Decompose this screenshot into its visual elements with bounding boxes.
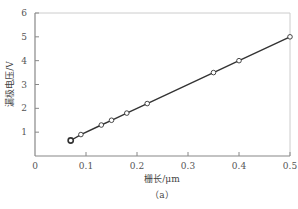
plot-frame: [35, 13, 290, 156]
data-point-marker: [109, 118, 114, 123]
x-tick-label: 0.2: [130, 161, 144, 171]
data-point-marker: [99, 123, 104, 128]
y-axis-ticks: 123456: [21, 8, 39, 137]
x-tick-label: 0.4: [232, 161, 247, 171]
x-tick-label: 0.5: [283, 161, 298, 171]
data-point-marker: [125, 111, 130, 116]
x-tick-label: 0: [32, 161, 38, 171]
x-tick-label: 0.3: [181, 161, 196, 171]
x-tick-label: 0.1: [79, 161, 93, 171]
figure-caption: （a）: [150, 190, 173, 200]
line-chart: 00.10.20.30.40.5 123456 栅长/μm （a） 漏极电压/V: [0, 0, 298, 209]
x-axis-label: 栅长/μm: [144, 173, 180, 184]
y-tick-label: 6: [21, 8, 27, 18]
data-point-marker: [68, 138, 73, 143]
data-point-marker: [79, 132, 84, 137]
x-axis-ticks: 00.10.20.30.40.5: [32, 152, 297, 171]
y-tick-label: 2: [21, 103, 27, 113]
data-point-marker: [237, 58, 242, 63]
y-tick-label: 1: [21, 127, 27, 137]
y-tick-label: 3: [21, 80, 27, 90]
data-point-marker: [288, 35, 293, 40]
data-series: [68, 35, 292, 144]
data-point-marker: [145, 101, 150, 106]
y-tick-label: 4: [21, 56, 27, 66]
data-point-marker: [211, 70, 216, 75]
y-tick-label: 5: [21, 32, 27, 42]
y-axis-label: 漏极电压/V: [4, 61, 15, 107]
